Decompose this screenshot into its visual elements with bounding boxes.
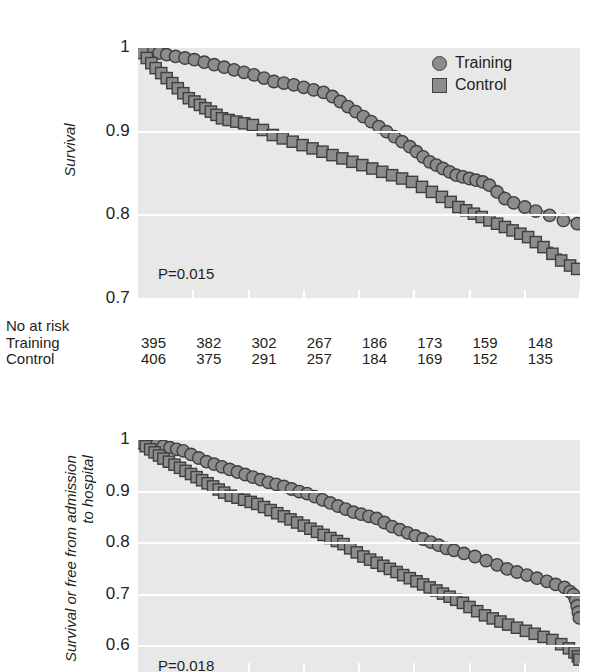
x-tick-mark [248,290,250,299]
gridline [138,491,580,493]
risk-cell: 173 [408,334,452,351]
survival-chart-panel: Survival 10.90.80.7 P=0.015 TrainingCont… [0,0,595,312]
no-at-risk-header: No at risk [6,317,69,334]
y-tick-label: 0.6 [70,635,130,655]
circle-marker [571,218,580,230]
gridline [138,131,580,133]
no-at-risk-table: No at risk Training 39538230226718617315… [6,317,595,363]
risk-cell: 257 [297,350,341,367]
risk-cell: 135 [518,350,562,367]
risk-cell: 382 [187,334,231,351]
gridline [138,645,580,647]
x-tick-mark [413,290,415,299]
circle-marker [573,612,580,624]
markers-training [138,48,580,230]
markers-control [138,48,580,275]
risk-cell: 184 [352,350,396,367]
risk-row-label-control: Control [6,350,54,367]
figure-root: Survival 10.90.80.7 P=0.015 TrainingCont… [0,0,595,672]
risk-cell: 186 [352,334,396,351]
x-tick-mark [358,663,360,672]
gridline [138,214,580,216]
x-tick-mark [579,663,581,672]
survival-curves-svg [138,48,580,299]
y-tick-label: 0.9 [70,481,130,501]
legend-item-training[interactable]: Training [432,52,512,74]
survival-free-admission-curves-svg [138,440,580,672]
markers-training [138,440,580,624]
x-tick-mark [524,290,526,299]
square-marker [572,263,580,274]
y-tick-label: 0.7 [70,584,130,604]
legend-label: Training [455,54,512,72]
risk-cell: 406 [131,350,175,367]
y-tick-label: 0.8 [70,532,130,552]
legend-item-control[interactable]: Control [432,74,512,96]
plot-area-survival [138,48,580,299]
risk-cell: 302 [242,334,286,351]
risk-row-label-training: Training [6,334,60,351]
legend-label: Control [455,76,507,94]
x-tick-mark [248,663,250,672]
x-tick-mark [413,663,415,672]
y-tick-label: 1 [70,429,130,449]
markers-control [138,440,580,665]
x-tick-mark [579,290,581,299]
chart-legend: TrainingControl [432,52,512,96]
y-tick-label: 0.9 [70,121,130,141]
p-value-annotation-survival: P=0.015 [158,265,214,282]
x-tick-mark [469,290,471,299]
risk-cell: 152 [463,350,507,367]
x-tick-mark [358,290,360,299]
risk-cell: 375 [187,350,231,367]
survival-free-admission-chart-panel: Survival or free from admissionto hospit… [0,372,595,672]
circle-marker [432,56,447,71]
y-tick-label: 1 [70,37,130,57]
x-tick-mark [303,290,305,299]
risk-cell: 291 [242,350,286,367]
risk-cell: 395 [131,334,175,351]
plot-area-survival-free-admission [138,440,580,672]
x-tick-mark [303,663,305,672]
y-tick-label: 0.8 [70,204,130,224]
risk-cell: 169 [408,350,452,367]
x-tick-mark [469,663,471,672]
x-tick-mark [524,663,526,672]
risk-cell: 159 [463,334,507,351]
gridline [138,542,580,544]
gridline [138,594,580,596]
risk-cell: 148 [518,334,562,351]
p-value-annotation-survival-free-admission: P=0.018 [158,657,214,672]
x-tick-mark [192,290,194,299]
risk-cell: 267 [297,334,341,351]
square-marker [432,78,447,93]
y-tick-label: 0.7 [70,288,130,308]
